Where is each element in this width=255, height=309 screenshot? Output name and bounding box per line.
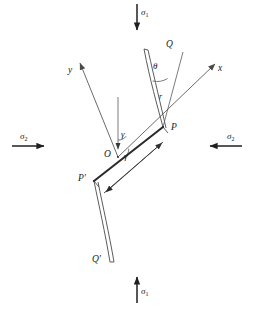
axis-y	[80, 63, 118, 157]
origin-label-o: O	[104, 150, 111, 160]
axis-label-y: y	[68, 66, 72, 76]
length-label-r: r	[159, 93, 162, 101]
sigma-1-bottom-label: σ1	[141, 287, 148, 297]
point-label-q: Q	[166, 40, 173, 50]
point-marker-p	[162, 126, 164, 128]
wing-crack-lower	[94, 181, 114, 262]
point-label-p: P	[171, 123, 177, 133]
fracture-mechanics-figure: σ1 σ1 σ2 σ2 x y O P P′ Q Q′ γ γ θ r	[0, 0, 255, 309]
point-label-q-prime: Q′	[92, 255, 101, 265]
angle-label-theta: θ	[153, 62, 157, 71]
radius-line-r	[163, 52, 183, 127]
point-marker-p-prime	[93, 180, 95, 182]
sigma-2-right-label: σ2	[227, 132, 234, 142]
axis-label-x: x	[218, 64, 222, 74]
point-label-p-prime: P′	[78, 174, 86, 184]
sigma-2-left-label: σ2	[20, 132, 27, 142]
sigma-1-top-label: σ1	[141, 8, 148, 18]
point-marker-o	[117, 156, 119, 158]
axis-x	[118, 64, 215, 157]
angle-label-gamma: γ	[121, 130, 125, 139]
angle-label-gamma-lower: γ	[124, 152, 128, 161]
